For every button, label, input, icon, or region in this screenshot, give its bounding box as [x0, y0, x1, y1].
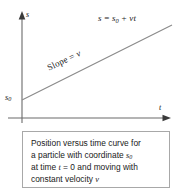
caption-line-1: Position versus time curve for [31, 138, 141, 148]
caption-box: Position versus time curve for a particl… [22, 131, 170, 188]
caption-line-3-prefix: at time [31, 162, 58, 172]
position-time-figure: s t s0 s = s0 + vt Slope = v Position ve… [0, 0, 177, 195]
caption-text: Position versus time curve for a particl… [31, 138, 162, 185]
caption-s-subscript: 0 [129, 154, 132, 160]
initial-position-subscript: 0 [8, 96, 11, 102]
equation-plus: + [119, 13, 129, 23]
y-axis-label: s [26, 11, 29, 19]
initial-position-label: s0 [5, 93, 11, 102]
equation-term2: vt [129, 13, 136, 23]
caption-velocity-symbol: v [95, 175, 99, 184]
y-axis-arrowhead [19, 11, 26, 20]
caption-line-2-prefix: a particle with coordinate [31, 150, 126, 160]
line-equation-label: s = s0 + vt [98, 14, 136, 23]
equation-term1-subscript: 0 [116, 17, 119, 24]
equation-equals: = [102, 13, 112, 23]
x-axis-arrowhead [163, 115, 172, 122]
caption-line-4-prefix: constant velocity [31, 174, 95, 184]
caption-line-3-suffix: = 0 and moving with [61, 162, 138, 172]
caption-initial-position-symbol: s0 [126, 151, 132, 160]
position-time-line [22, 25, 172, 100]
x-axis-label: t [159, 104, 161, 112]
